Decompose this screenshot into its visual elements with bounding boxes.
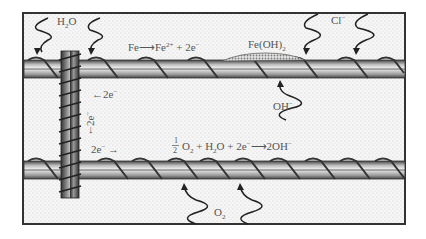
- corrosion-diagram: H2O Cl− Fe⟶Fe2+ + 2e− Fe(OH)2 OH− ←2e− 2…: [0, 0, 426, 239]
- svg-text:1: 1: [174, 136, 178, 145]
- concrete-block: [23, 13, 405, 224]
- electron-flow-right-label: 2e− →: [91, 143, 119, 155]
- svg-text:2: 2: [173, 146, 177, 155]
- top-rebar: [24, 58, 405, 79]
- vertical-rebar: [59, 51, 81, 198]
- electron-down-arrow: ↓: [88, 123, 94, 135]
- anodic-reaction-label: Fe⟶Fe2+ + 2e−: [128, 41, 200, 53]
- bottom-rebar: [24, 159, 405, 180]
